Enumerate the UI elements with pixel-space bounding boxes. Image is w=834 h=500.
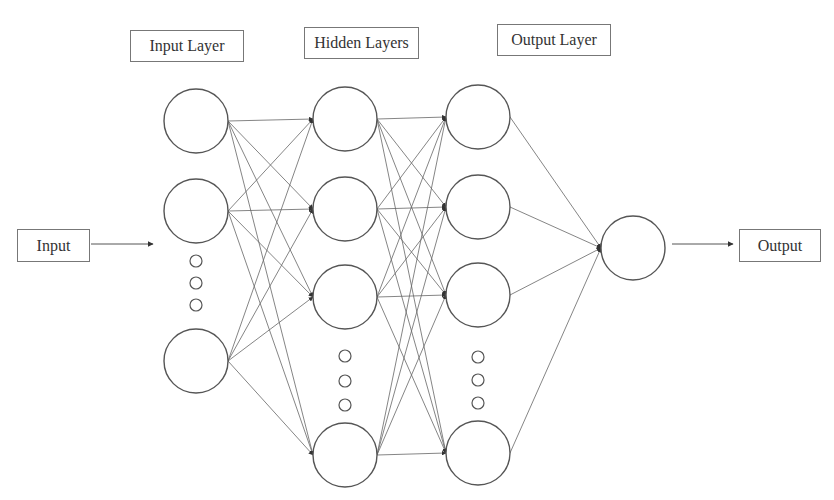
- connection-edge: [228, 209, 313, 361]
- connection-edge: [228, 119, 313, 361]
- connection-edge: [377, 295, 446, 455]
- hidden2-neuron: [446, 85, 510, 149]
- neurons: [164, 85, 665, 487]
- ellipsis-dot: [339, 399, 351, 411]
- ellipsis-dot: [190, 299, 202, 311]
- ellipsis-dot: [472, 397, 484, 409]
- input-neuron: [164, 329, 228, 393]
- connections: [228, 117, 601, 455]
- connection-edge: [228, 361, 313, 455]
- hidden1-neuron: [313, 87, 377, 151]
- connection-edge: [228, 297, 313, 361]
- ellipsis-dot: [190, 255, 202, 267]
- connection-edge: [510, 207, 601, 248]
- ellipsis-dot: [472, 374, 484, 386]
- neural-network-diagram: [0, 0, 834, 500]
- connection-edge: [228, 119, 313, 121]
- input-neuron: [164, 89, 228, 153]
- ellipsis-dot: [339, 350, 351, 362]
- connection-edge: [228, 121, 313, 455]
- connection-edge: [510, 248, 601, 295]
- hidden1-neuron: [313, 177, 377, 241]
- ellipsis-dot: [472, 351, 484, 363]
- ellipsis-dot: [339, 375, 351, 387]
- output-neuron: [601, 216, 665, 280]
- connection-edge: [377, 295, 446, 297]
- connection-edge: [510, 117, 601, 248]
- hidden2-neuron: [446, 175, 510, 239]
- connection-edge: [228, 119, 313, 211]
- connection-edge: [228, 211, 313, 297]
- hidden2-neuron: [446, 263, 510, 327]
- connection-edge: [510, 248, 601, 453]
- ellipsis-dot: [190, 277, 202, 289]
- connection-edge: [377, 207, 446, 297]
- hidden1-neuron: [313, 265, 377, 329]
- hidden1-neuron: [313, 423, 377, 487]
- connection-edge: [377, 453, 446, 455]
- connection-edge: [377, 117, 446, 209]
- input-neuron: [164, 179, 228, 243]
- connection-edge: [377, 117, 446, 119]
- connection-edge: [228, 211, 313, 455]
- hidden2-neuron: [446, 421, 510, 485]
